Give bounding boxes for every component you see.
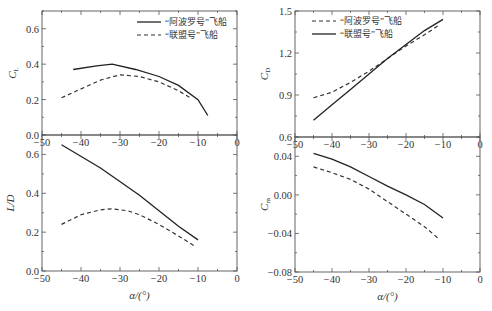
y-axis-label: Cm bbox=[258, 198, 272, 211]
panel-cl: −50−40−30−20−1000.00.20.40.6CL“阿波罗号”飞船“联… bbox=[6, 11, 240, 148]
y-tick-label: 1.2 bbox=[279, 48, 292, 59]
x-tick-label: 0 bbox=[477, 274, 482, 285]
y-tick-label: −0.08 bbox=[268, 267, 292, 278]
y-tick-label: 0.9 bbox=[279, 90, 292, 101]
y-tick-label: 0.2 bbox=[26, 227, 39, 238]
y-tick-label: 1.5 bbox=[279, 6, 292, 17]
x-tick-label: −40 bbox=[324, 274, 340, 285]
y-tick-label: 0.0 bbox=[26, 130, 39, 141]
legend-label: “阿波罗号”飞船 bbox=[340, 15, 402, 26]
y-tick-label: 0.04 bbox=[274, 151, 293, 162]
x-tick-label: 0 bbox=[234, 273, 239, 284]
y-tick-label: 0.6 bbox=[279, 132, 292, 143]
legend-label: “联盟号”飞船 bbox=[165, 29, 218, 40]
plot-frame bbox=[295, 137, 480, 272]
x-axis-label: α/(°) bbox=[377, 290, 398, 303]
y-tick-label: 0.0 bbox=[26, 266, 39, 277]
series-line bbox=[62, 75, 191, 98]
series-line bbox=[62, 209, 195, 246]
x-axis-label: α/(°) bbox=[129, 289, 150, 302]
y-tick-label: 0.6 bbox=[26, 24, 39, 35]
x-tick-label: −20 bbox=[151, 273, 167, 284]
y-axis-label: CL bbox=[6, 67, 20, 79]
y-tick-label: 0.00 bbox=[274, 190, 292, 201]
panel-cm: −50−40−30−20−100−0.08−0.040.000.04Cmα/(°… bbox=[258, 137, 483, 303]
series-line bbox=[73, 64, 208, 115]
y-tick-label: 0.6 bbox=[26, 149, 39, 160]
panel-ld: −50−40−30−20−1000.00.20.40.6L/Dα/(°) bbox=[4, 135, 240, 302]
x-tick-label: −30 bbox=[361, 274, 377, 285]
x-tick-label: −20 bbox=[398, 274, 414, 285]
y-tick-label: 0.4 bbox=[26, 188, 40, 199]
y-tick-label: −0.04 bbox=[268, 228, 293, 239]
x-tick-label: −40 bbox=[73, 273, 89, 284]
x-tick-label: −30 bbox=[112, 273, 128, 284]
figure: −50−40−30−20−1000.00.20.40.6CL“阿波罗号”飞船“联… bbox=[0, 0, 492, 311]
panel-cd: −50−40−30−20−1000.60.91.21.5CD“阿波罗号”飞船“联… bbox=[258, 6, 483, 150]
x-tick-label: −10 bbox=[435, 274, 451, 285]
series-line bbox=[62, 145, 199, 240]
series-line bbox=[314, 153, 444, 218]
legend-label: “阿波罗号”飞船 bbox=[165, 16, 227, 27]
y-tick-label: 0.4 bbox=[26, 59, 40, 70]
plot-frame bbox=[42, 135, 237, 271]
y-axis-label: CD bbox=[258, 68, 272, 80]
x-tick-label: −10 bbox=[190, 273, 206, 284]
y-tick-label: 0.2 bbox=[26, 95, 39, 106]
legend-label: “联盟号”飞船 bbox=[340, 28, 393, 39]
y-axis-label: L/D bbox=[4, 194, 16, 212]
